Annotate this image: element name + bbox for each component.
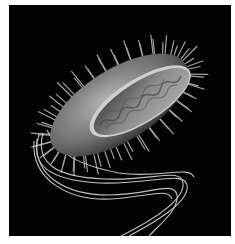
pilus — [151, 35, 153, 54]
bacterium-illustration — [9, 5, 231, 236]
pilus — [185, 58, 193, 63]
pilus — [54, 152, 59, 161]
pilus — [61, 155, 66, 172]
pilus — [181, 49, 189, 59]
pilus — [98, 153, 101, 166]
pilus — [35, 142, 50, 146]
image-frame — [9, 5, 231, 236]
pilus — [171, 41, 174, 55]
pilus — [88, 69, 94, 78]
pilus — [149, 128, 156, 138]
pilus — [186, 83, 204, 89]
pilus — [105, 151, 110, 167]
pilus — [165, 36, 166, 54]
pilus — [111, 49, 118, 64]
pilus — [183, 92, 193, 97]
pilus — [111, 149, 115, 158]
pilus — [56, 94, 66, 102]
pilus — [51, 106, 59, 112]
pilus — [124, 143, 132, 159]
pilus — [116, 147, 122, 160]
pilus — [99, 59, 106, 71]
pilus — [63, 83, 74, 95]
pilus — [169, 110, 176, 117]
pilus — [84, 156, 85, 168]
pilus — [94, 154, 98, 174]
pilus — [44, 148, 54, 156]
pilus — [177, 101, 188, 109]
pilus — [170, 110, 183, 121]
pilus — [187, 67, 200, 70]
pilus — [72, 71, 84, 86]
pilus — [39, 112, 55, 120]
pilus — [31, 133, 50, 134]
pilus — [124, 41, 131, 60]
pilus — [128, 142, 133, 152]
pilus — [174, 46, 177, 55]
pilus — [160, 119, 173, 134]
pilus — [139, 135, 149, 151]
pilus — [150, 128, 160, 141]
